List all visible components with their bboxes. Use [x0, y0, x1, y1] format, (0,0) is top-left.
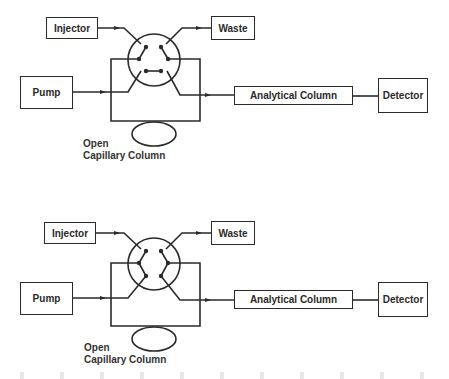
capillary-caption-line1: Open [83, 138, 165, 150]
analytical-column-box: Analytical Column [234, 86, 353, 105]
detector-label: Detector [383, 90, 424, 101]
capillary-caption-line2: Capillary Column [84, 354, 166, 366]
analytical-column-label: Analytical Column [250, 294, 337, 305]
six-port-valve-icon [128, 238, 180, 290]
pump-label: Pump [33, 293, 61, 304]
injector-label: Injector [54, 23, 90, 34]
valve-diagram-load: Injector Waste Pump Analytical Column De… [0, 0, 449, 190]
valve-diagram-inject: Injector Waste Pump Analytical Column De… [0, 190, 449, 379]
detector-box: Detector [378, 78, 428, 113]
capillary-caption-line1: Open [84, 342, 166, 354]
pump-box: Pump [20, 282, 73, 315]
capillary-caption-line2: Capillary Column [83, 150, 165, 162]
analytical-column-label: Analytical Column [250, 90, 337, 101]
detector-label: Detector [383, 294, 424, 305]
detector-box: Detector [378, 282, 428, 317]
waste-box: Waste [211, 16, 255, 40]
cropped-caption-fragment [0, 372, 449, 379]
waste-box: Waste [211, 221, 255, 245]
injector-label: Injector [52, 228, 88, 239]
waste-label: Waste [218, 228, 247, 239]
pump-label: Pump [33, 87, 61, 98]
waste-label: Waste [218, 23, 247, 34]
capillary-caption: Open Capillary Column [84, 342, 166, 366]
analytical-column-box: Analytical Column [234, 290, 353, 309]
injector-box: Injector [46, 17, 98, 39]
capillary-caption: Open Capillary Column [83, 138, 165, 162]
injector-box: Injector [44, 222, 96, 244]
pump-box: Pump [20, 76, 73, 109]
